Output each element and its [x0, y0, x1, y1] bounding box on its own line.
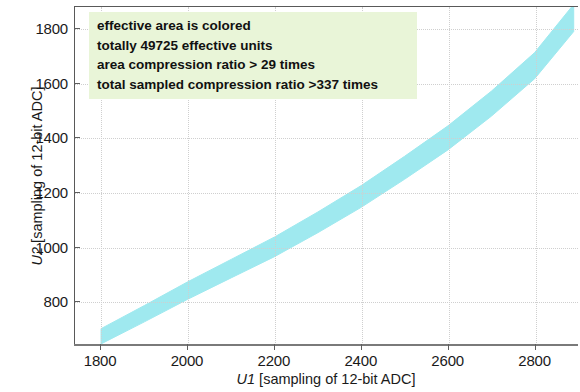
- x-tick: [100, 344, 101, 350]
- y-tick-label: 800: [44, 293, 68, 310]
- x-tick-label: 1800: [84, 352, 117, 369]
- chart-figure: 180020002200240026002800 800100012001400…: [0, 0, 580, 392]
- x-tick-label: 2000: [171, 352, 204, 369]
- annotation-line: total sampled compression ratio >337 tim…: [97, 75, 411, 95]
- y-tick: [74, 137, 80, 138]
- x-tick: [448, 344, 449, 350]
- x-tick: [535, 344, 536, 350]
- x-tick: [187, 344, 188, 350]
- y-tick: [74, 83, 80, 84]
- x-tick: [274, 344, 275, 350]
- annotation-line: effective area is colored: [97, 16, 411, 36]
- annotation-textbox: effective area is colored totally 49725 …: [89, 12, 417, 99]
- y-axis-units: [sampling of 12-bit ADC]: [29, 87, 45, 247]
- y-axis-title: U2 [sampling of 12-bit ADC]: [29, 21, 45, 331]
- annotation-line: totally 49725 effective units: [97, 36, 411, 56]
- annotation-line: area compression ratio > 29 times: [97, 55, 411, 75]
- x-axis-line: [74, 344, 578, 346]
- x-axis-units: [sampling of 12-bit ADC]: [255, 371, 415, 387]
- x-axis-variable: U1: [237, 371, 256, 387]
- gridline-vertical: [449, 7, 450, 345]
- gridline-horizontal: [75, 138, 578, 139]
- gridline-horizontal: [75, 302, 578, 303]
- x-tick-label: 2800: [518, 352, 551, 369]
- y-tick: [74, 247, 80, 248]
- x-tick: [361, 344, 362, 350]
- x-axis-title: U1 [sampling of 12-bit ADC]: [74, 371, 578, 387]
- gridline-horizontal: [75, 248, 578, 249]
- y-axis-variable: U2: [29, 247, 45, 266]
- y-tick: [74, 28, 80, 29]
- x-tick-label: 2400: [344, 352, 377, 369]
- y-tick: [74, 301, 80, 302]
- y-tick: [74, 192, 80, 193]
- gridline-vertical: [536, 7, 537, 345]
- x-tick-label: 2600: [431, 352, 464, 369]
- x-tick-label: 2200: [258, 352, 291, 369]
- gridline-horizontal: [75, 193, 578, 194]
